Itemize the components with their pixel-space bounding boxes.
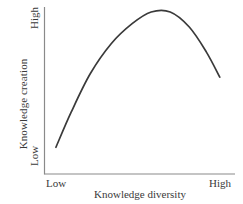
data-curve-knowledge-creation xyxy=(56,10,220,147)
chart-figure: High Low Knowledge creation Low High Kno… xyxy=(0,0,243,204)
y-tick-label-high: High xyxy=(28,0,40,40)
y-axis-title: Knowledge creation xyxy=(17,29,29,179)
x-axis-title: Knowledge diversity xyxy=(44,188,236,200)
y-tick-label-low: Low xyxy=(28,136,40,176)
